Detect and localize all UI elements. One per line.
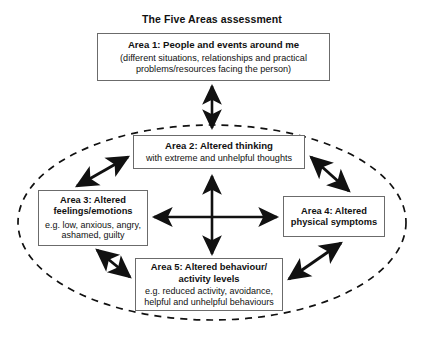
box-area-4: Area 4: Altered physical symptoms bbox=[283, 196, 385, 237]
box-area-3: Area 3: Altered feelings/emotions e.g. l… bbox=[38, 190, 148, 246]
connector-area3-area5 bbox=[97, 250, 130, 277]
box-area-5: Area 5: Altered behaviour/ activity leve… bbox=[135, 258, 283, 311]
five-areas-diagram: The Five Areas assessment Area 1: People bbox=[0, 0, 424, 351]
area-4-heading: Area 4: Altered physical symptoms bbox=[287, 206, 381, 228]
area-3-heading: Area 3: Altered feelings/emotions bbox=[42, 195, 144, 217]
area-5-heading: Area 5: Altered behaviour/ activity leve… bbox=[139, 261, 279, 283]
connector-area5-area4 bbox=[289, 243, 341, 279]
area-2-heading: Area 2: Altered thinking bbox=[165, 140, 273, 151]
connector-area3-area2 bbox=[77, 157, 128, 186]
area-1-heading: Area 1: People and events around me bbox=[128, 39, 299, 50]
box-area-1: Area 1: People and events around me (dif… bbox=[97, 33, 330, 81]
box-area-2: Area 2: Altered thinking with extreme an… bbox=[133, 135, 305, 169]
area-3-detail: e.g. low, anxious, angry, ashamed, guilt… bbox=[42, 220, 144, 242]
area-1-detail: (different situations, relationships and… bbox=[102, 53, 325, 75]
connector-area2-area4 bbox=[311, 157, 349, 191]
area-2-detail: with extreme and unhelpful thoughts bbox=[146, 153, 292, 164]
area-5-detail: e.g. reduced activity, avoidance, helpfu… bbox=[139, 286, 279, 308]
